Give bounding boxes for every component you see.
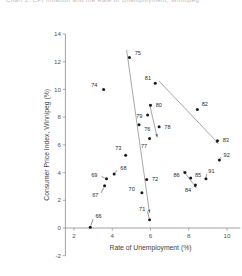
data-point-label-70: 70 (129, 186, 135, 192)
data-point-label-81: 81 (145, 75, 151, 81)
data-point-label-82: 82 (202, 101, 208, 107)
data-point-label-76: 76 (144, 126, 150, 132)
data-point-76 (138, 123, 141, 126)
data-point-label-68: 68 (120, 165, 126, 171)
data-point-92 (218, 159, 221, 162)
data-point-70 (140, 191, 143, 194)
point-leader-line-66 (91, 219, 93, 226)
data-point-66 (89, 226, 92, 229)
x-axis-title: Rate of Unemployment (%) (110, 244, 192, 252)
data-point-label-80: 80 (156, 102, 162, 108)
data-point-81 (154, 82, 157, 85)
data-point-79 (146, 114, 149, 117)
x-tick-label: 10 (224, 232, 231, 239)
data-point-label-75: 75 (135, 50, 141, 56)
data-point-80 (149, 104, 152, 107)
point-leader-line-69 (102, 177, 105, 178)
data-point-label-86: 86 (173, 172, 179, 178)
y-tick-label: 6 (57, 141, 61, 148)
y-tick-label: 4 (57, 169, 61, 176)
data-point-91 (204, 177, 207, 180)
point-leader-line-67 (101, 187, 104, 192)
data-point-69 (105, 177, 108, 180)
data-point-74 (102, 88, 105, 91)
data-point-86 (183, 171, 186, 174)
data-point-72 (145, 178, 148, 181)
data-point-67 (103, 184, 106, 187)
point-leader-line-92 (220, 157, 221, 158)
y-tick-label: 12 (54, 58, 61, 65)
x-tick-label: 4 (111, 232, 115, 239)
data-point-75 (128, 56, 131, 59)
data-point-label-79: 79 (136, 113, 142, 119)
data-point-84 (194, 184, 197, 187)
data-point-label-84: 84 (185, 187, 191, 193)
data-point-label-72: 72 (152, 176, 158, 182)
y-tick-label: 14 (54, 30, 61, 37)
data-point-label-91: 91 (208, 168, 214, 174)
path-80-to-78 (150, 104, 158, 137)
data-point-label-66: 66 (95, 213, 101, 219)
point-leader-line-68 (115, 170, 117, 172)
data-point-77 (148, 137, 151, 140)
path-81-to-83 (159, 81, 218, 143)
data-point-83 (216, 139, 219, 142)
data-point-label-73: 73 (115, 145, 121, 151)
y-tick-label: 0 (57, 224, 61, 231)
path-80-to-78-arrowhead (155, 134, 158, 137)
data-point-label-77: 77 (141, 143, 147, 149)
data-point-label-78: 78 (164, 124, 170, 130)
plot-canvas: -202468101214246810Rate of Unemployment … (0, 0, 242, 276)
data-point-68 (113, 172, 116, 175)
y-tick-label: 8 (57, 113, 61, 120)
data-point-73 (124, 154, 127, 157)
scatter-chart: Chart 1. CPI Inflation and the Rate of U… (0, 0, 242, 276)
y-axis-title: Consumer Price Index, Winnipeg (%) (43, 89, 51, 201)
data-point-label-85: 85 (195, 172, 201, 178)
data-point-label-67: 67 (92, 192, 98, 198)
path-75-to-71-arrowhead (148, 209, 151, 212)
x-tick-label: 6 (149, 232, 153, 239)
data-point-85 (189, 177, 192, 180)
x-tick-label: 2 (72, 232, 76, 239)
data-point-label-71: 71 (139, 206, 145, 212)
y-tick-label: 2 (57, 196, 61, 203)
data-point-78 (158, 125, 161, 128)
x-tick-label: 8 (187, 232, 191, 239)
point-leader-line-71 (147, 212, 149, 218)
data-point-label-83: 83 (223, 137, 229, 143)
data-point-82 (196, 108, 199, 111)
y-tick-label: 10 (54, 86, 61, 93)
data-point-label-74: 74 (91, 82, 97, 88)
data-point-label-69: 69 (91, 172, 97, 178)
y-tick-label: -2 (55, 252, 61, 259)
data-point-71 (148, 218, 151, 221)
data-point-label-92: 92 (224, 152, 230, 158)
